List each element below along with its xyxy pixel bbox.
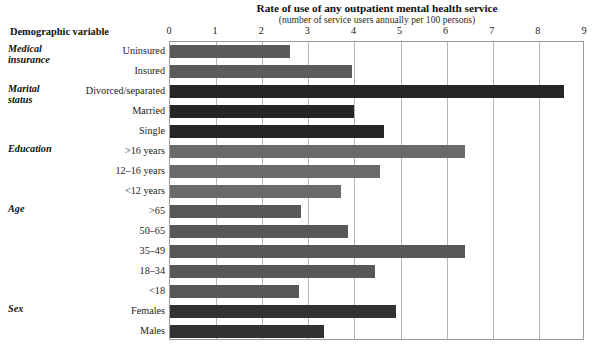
- x-tick-label-8: 8: [530, 25, 546, 36]
- bar: [170, 125, 384, 138]
- row-label: Females: [8, 305, 168, 316]
- chart-title: Rate of use of any outpatient mental hea…: [169, 2, 585, 14]
- row-label: Insured: [8, 65, 168, 76]
- bar: [170, 45, 290, 58]
- bar: [170, 85, 564, 98]
- row-label-column: MedicalinsuranceMaritalstatusEducationAg…: [0, 41, 168, 340]
- row-label: 12–16 years: [8, 165, 168, 176]
- x-tick-label-0: 0: [161, 25, 177, 36]
- bar: [170, 165, 380, 178]
- x-tick-label-1: 1: [207, 25, 223, 36]
- bar: [170, 65, 352, 78]
- row-label: 50–65: [8, 225, 168, 236]
- bar: [170, 245, 465, 258]
- x-tick-label-3: 3: [299, 25, 315, 36]
- bar: [170, 205, 301, 218]
- plot-area: [169, 41, 584, 340]
- x-axis-header: Demographic variable 0123456789: [0, 26, 607, 40]
- x-tick-label-5: 5: [392, 25, 408, 36]
- bar: [170, 225, 348, 238]
- row-label: 35–49: [8, 245, 168, 256]
- row-label: Single: [8, 125, 168, 136]
- category-axis-title: Demographic variable: [10, 26, 109, 37]
- bar: [170, 305, 396, 318]
- chart-subtitle: (number of service users annually per 10…: [169, 14, 585, 25]
- bar: [170, 325, 324, 338]
- x-tick-label-2: 2: [253, 25, 269, 36]
- x-tick-label-7: 7: [484, 25, 500, 36]
- row-label: <18: [8, 285, 168, 296]
- row-label: Divorced/separated: [8, 85, 168, 96]
- chart-figure: Rate of use of any outpatient mental hea…: [0, 0, 607, 353]
- row-label: 18–34: [8, 265, 168, 276]
- row-label: >65: [8, 205, 168, 216]
- bar: [170, 105, 354, 118]
- x-tick-label-6: 6: [438, 25, 454, 36]
- x-tick-label-4: 4: [345, 25, 361, 36]
- row-label: Married: [8, 105, 168, 116]
- row-label: Males: [8, 325, 168, 336]
- x-tick-label-9: 9: [576, 25, 592, 36]
- bar: [170, 185, 341, 198]
- row-label: Uninsured: [8, 45, 168, 56]
- chart-title-block: Rate of use of any outpatient mental hea…: [169, 2, 585, 25]
- bar: [170, 285, 299, 298]
- bar: [170, 265, 375, 278]
- bar: [170, 145, 465, 158]
- row-label: >16 years: [8, 145, 168, 156]
- row-label: <12 years: [8, 185, 168, 196]
